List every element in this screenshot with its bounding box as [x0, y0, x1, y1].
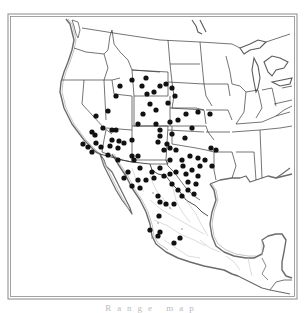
occurrence-dot [163, 201, 168, 206]
occurrence-dot [121, 140, 126, 145]
small-occurrence-dots [151, 192, 183, 239]
occurrence-dot [135, 177, 140, 182]
occurrence-dot [143, 177, 148, 182]
occurrence-dot [147, 227, 152, 232]
occurrence-dot [135, 121, 140, 126]
occurrence-dot [117, 83, 122, 88]
occurrence-dot [169, 131, 174, 136]
occurrence-dot [93, 140, 98, 145]
occurrence-dot [161, 173, 166, 178]
coastline [60, 19, 292, 294]
occurrence-dot [191, 191, 196, 196]
occurrence-dot [161, 147, 166, 152]
occurrence-dot [144, 91, 149, 96]
occurrence-dot [129, 137, 134, 142]
occurrence-dot [151, 89, 156, 94]
occurrence-dot [209, 163, 214, 168]
occurrence-dot [137, 185, 142, 190]
occurrence-dot [169, 85, 174, 90]
occurrence-dot [157, 133, 162, 138]
small-occurrence-dot [181, 228, 183, 230]
occurrence-dot [169, 181, 174, 186]
occurrence-dot [93, 113, 98, 118]
occurrence-dots [80, 75, 218, 245]
occurrence-dot [153, 121, 158, 126]
occurrence-dot [177, 235, 182, 240]
occurrence-dot [185, 187, 190, 192]
occurrence-dot [113, 127, 118, 132]
occurrence-dot [115, 157, 120, 162]
occurrence-dot [157, 127, 162, 132]
occurrence-dot [89, 149, 94, 154]
occurrence-dot [155, 139, 160, 144]
occurrence-dot [173, 147, 178, 152]
occurrence-dot [157, 199, 162, 204]
occurrence-dot [175, 117, 180, 122]
occurrence-dot [183, 111, 188, 116]
occurrence-dot [125, 169, 130, 174]
map-caption: Range map [0, 303, 305, 313]
occurrence-dot [105, 108, 110, 113]
occurrence-dot [153, 107, 158, 112]
occurrence-dot [105, 152, 110, 157]
occurrence-dot [98, 144, 103, 149]
occurrence-dot [165, 100, 170, 105]
occurrence-dot [155, 193, 160, 198]
occurrence-dot [151, 175, 156, 180]
occurrence-dot [195, 155, 200, 160]
occurrence-dot [202, 157, 207, 162]
great-lakes [192, 20, 292, 92]
occurrence-dot [171, 240, 176, 245]
occurrence-dot [147, 101, 152, 106]
occurrence-dot [195, 173, 200, 178]
occurrence-dot [100, 125, 105, 130]
occurrence-dot [156, 213, 161, 218]
occurrence-dot [207, 111, 212, 116]
occurrence-dot [80, 141, 85, 146]
occurrence-dot [121, 175, 126, 180]
occurrence-dot [116, 138, 121, 143]
small-occurrence-dot [151, 237, 153, 239]
occurrence-dot [157, 165, 162, 170]
occurrence-dot [179, 157, 184, 162]
occurrence-dot [182, 135, 187, 140]
occurrence-dot [167, 119, 172, 124]
occurrence-dot [171, 201, 176, 206]
occurrence-dot [173, 169, 178, 174]
occurrence-dot [129, 183, 134, 188]
occurrence-dot [208, 145, 213, 150]
occurrence-dot [172, 93, 177, 98]
map-frame-inner [11, 17, 295, 297]
small-occurrence-dot [152, 192, 154, 194]
occurrence-dot [167, 157, 172, 162]
distribution-map: Range map [0, 0, 305, 313]
occurrence-dot [167, 145, 172, 150]
occurrence-dot [109, 137, 114, 142]
occurrence-dot [195, 109, 200, 114]
occurrence-dot [129, 77, 134, 82]
occurrence-dot [143, 75, 148, 80]
occurrence-dot [179, 193, 184, 198]
small-occurrence-dot [157, 222, 159, 224]
occurrence-dot [149, 169, 154, 174]
occurrence-dot [85, 144, 90, 149]
occurrence-dot [197, 163, 202, 168]
occurrence-dot [189, 125, 194, 130]
occurrence-dot [131, 157, 136, 162]
occurrence-dot [167, 171, 172, 176]
occurrence-dot [175, 187, 180, 192]
occurrence-dot [180, 163, 185, 168]
occurrence-dot [135, 153, 140, 158]
occurrence-dot [193, 181, 198, 186]
occurrence-dot [107, 143, 112, 148]
occurrence-dot [137, 165, 142, 170]
occurrence-dot [185, 179, 190, 184]
occurrence-dot [189, 167, 194, 172]
occurrence-dot [187, 153, 192, 158]
occurrence-dot [115, 145, 120, 150]
occurrence-dot [140, 111, 145, 116]
small-occurrence-dot [169, 207, 171, 209]
occurrence-dot [113, 93, 118, 98]
occurrence-dot [157, 229, 162, 234]
occurrence-dot [163, 81, 168, 86]
